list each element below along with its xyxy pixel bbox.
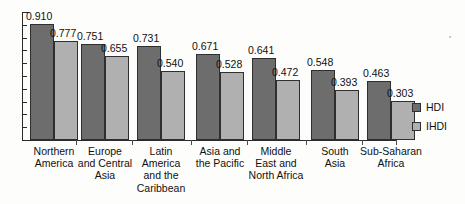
bar-group: 0.4630.303 bbox=[367, 12, 415, 140]
legend-item-hdi: HDI bbox=[412, 101, 447, 113]
bar-value-label: 0.393 bbox=[331, 77, 357, 88]
bar-group: 0.6410.472 bbox=[252, 12, 300, 140]
bar-hdi bbox=[81, 44, 105, 140]
bar-ihdi bbox=[335, 90, 359, 140]
light-gray-swatch-icon bbox=[412, 122, 421, 131]
y-axis-tick bbox=[22, 38, 27, 39]
bar-value-label: 0.777 bbox=[50, 28, 76, 39]
bar-value-label: 0.303 bbox=[387, 88, 413, 99]
bar-group: 0.7510.655 bbox=[81, 12, 129, 140]
bar-value-label: 0.910 bbox=[26, 11, 52, 22]
bar-value-label: 0.548 bbox=[307, 57, 333, 68]
y-axis-tick bbox=[22, 114, 27, 115]
scan-speck bbox=[449, 36, 451, 38]
chart-legend: HDI IHDI bbox=[412, 101, 447, 139]
y-axis-tick bbox=[22, 89, 27, 90]
bar-ihdi bbox=[105, 56, 129, 140]
bar-ihdi bbox=[220, 72, 244, 140]
bar-value-label: 0.472 bbox=[272, 67, 298, 78]
dark-gray-swatch-icon bbox=[412, 103, 421, 112]
bar-ihdi bbox=[161, 71, 185, 140]
bar-ihdi bbox=[54, 41, 78, 140]
bar-group: 0.6710.528 bbox=[196, 12, 244, 140]
y-axis-tick bbox=[22, 127, 27, 128]
bar-group: 0.5480.393 bbox=[311, 12, 359, 140]
y-axis-tick bbox=[22, 50, 27, 51]
bar-value-label: 0.463 bbox=[363, 68, 389, 79]
legend-item-ihdi: IHDI bbox=[412, 120, 447, 132]
y-axis-tick bbox=[22, 25, 27, 26]
bar-chart: 0.9100.7770.7510.6550.7310.5400.6710.528… bbox=[0, 0, 465, 204]
y-axis-tick bbox=[22, 63, 27, 64]
y-axis-tick bbox=[22, 76, 27, 77]
bar-ihdi bbox=[276, 80, 300, 140]
bar-value-label: 0.671 bbox=[192, 41, 218, 52]
bar-value-label: 0.641 bbox=[248, 45, 274, 56]
x-axis-line bbox=[22, 140, 397, 141]
bar-value-label: 0.528 bbox=[216, 59, 242, 70]
legend-label-hdi: HDI bbox=[426, 101, 444, 113]
bar-group: 0.9100.777 bbox=[30, 12, 78, 140]
y-axis-tick bbox=[22, 102, 27, 103]
bar-value-label: 0.751 bbox=[77, 31, 103, 42]
legend-label-ihdi: IHDI bbox=[426, 120, 447, 132]
category-label: Sub-Saharan Africa bbox=[353, 145, 429, 169]
bar-group: 0.7310.540 bbox=[137, 12, 185, 140]
bar-hdi bbox=[30, 24, 54, 140]
bar-value-label: 0.540 bbox=[157, 58, 183, 69]
bar-value-label: 0.655 bbox=[101, 43, 127, 54]
bar-value-label: 0.731 bbox=[133, 33, 159, 44]
